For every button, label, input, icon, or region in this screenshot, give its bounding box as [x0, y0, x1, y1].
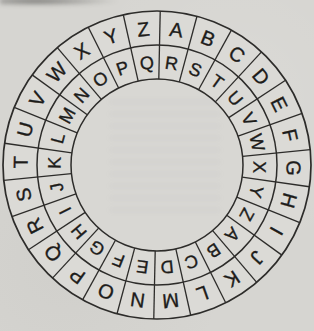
outer-ring-letter-T: T	[9, 156, 31, 169]
inner-ring-letter-K: K	[44, 157, 64, 169]
scanned-paper-page: ABCDEFGHIJKLMNOPQRSTUVWXYZRSTUVWXYZABCDE…	[0, 0, 314, 331]
outer-ring-letter-N: N	[129, 288, 146, 312]
outer-ring-letter-M: M	[161, 289, 180, 313]
outer-ring-letter-G: G	[282, 160, 304, 176]
inner-ring-letter-Q: Q	[139, 52, 155, 73]
inner-circle	[71, 79, 243, 251]
cipher-wheel: ABCDEFGHIJKLMNOPQRSTUVWXYZRSTUVWXYZABCDE…	[0, 0, 314, 331]
inner-ring-letter-D: D	[160, 256, 175, 277]
outer-ring-letter-Z: Z	[136, 18, 150, 41]
inner-ring-letter-X: X	[249, 161, 269, 173]
